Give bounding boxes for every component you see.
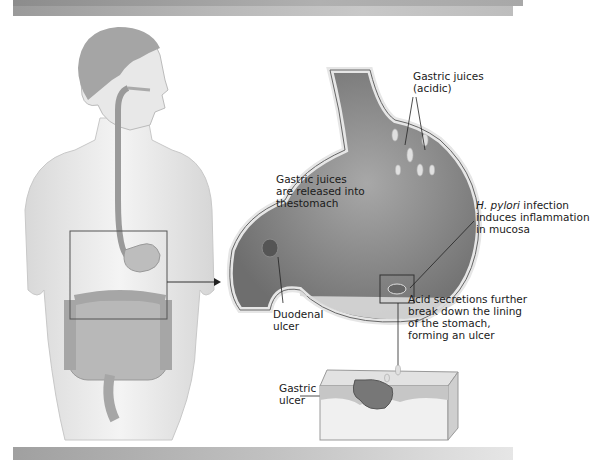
label-gastric-ulcer: Gastric ulcer xyxy=(279,382,316,406)
label-h-pylori-infection: H. pylori infection induces inflammation… xyxy=(476,199,590,235)
tissue-cross-section xyxy=(320,365,458,440)
human-body-figure xyxy=(25,27,221,440)
label-acid-secretions: Acid secretions further break down the l… xyxy=(408,293,527,341)
duodenal-ulcer-site xyxy=(262,239,278,257)
label-gastric-juices-released: Gastric juices are released into thestom… xyxy=(276,173,365,209)
arrow-head-icon xyxy=(214,278,221,286)
label-gastric-juices-acidic: Gastric juices (acidic) xyxy=(413,70,484,94)
label-duodenal-ulcer: Duodenal ulcer xyxy=(273,308,323,332)
